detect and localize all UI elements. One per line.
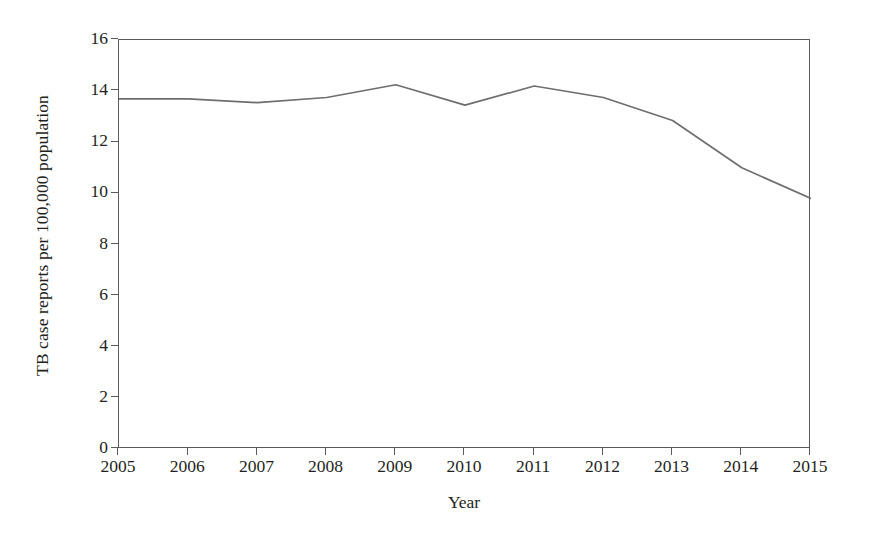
x-axis-tick-label: 2014 (723, 458, 758, 476)
x-axis-tick-mark (256, 448, 257, 455)
x-axis-tick-mark (187, 448, 188, 455)
x-axis-tick-mark (533, 448, 534, 455)
x-axis-tick-label: 2008 (308, 458, 343, 476)
x-axis-tick-mark (325, 448, 326, 455)
x-axis-tick-label: 2015 (793, 458, 828, 476)
chart-figure: TB case reports per 100,000 population 0… (0, 0, 870, 551)
x-axis-tick-mark (117, 448, 118, 455)
x-axis-tick-mark (671, 448, 672, 455)
x-axis-tick-mark (463, 448, 464, 455)
x-axis-tick-label: 2011 (516, 458, 550, 476)
x-axis-tick-mark (394, 448, 395, 455)
x-axis-tick-label: 2012 (585, 458, 620, 476)
x-axis-tick-mark (809, 448, 810, 455)
x-axis-tick-label: 2007 (239, 458, 274, 476)
x-axis-label: Year (118, 492, 810, 513)
x-axis-tick-mark (602, 448, 603, 455)
x-axis-tick-mark (740, 448, 741, 455)
x-axis-tick-label: 2010 (447, 458, 482, 476)
x-axis-tick-label: 2013 (654, 458, 689, 476)
x-axis-tick-label: 2009 (377, 458, 412, 476)
x-axis-tick-label: 2006 (170, 458, 205, 476)
x-axis-tick-label: 2005 (101, 458, 136, 476)
x-axis-tick-labels: 2005200620072008200920102011201220132014… (0, 0, 870, 551)
